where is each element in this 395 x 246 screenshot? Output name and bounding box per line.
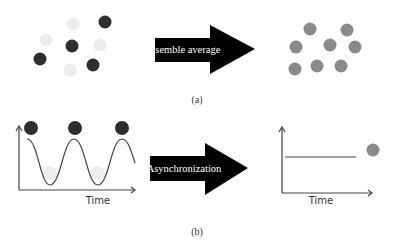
averaged-dot	[311, 60, 324, 73]
averaged-dot	[289, 63, 302, 76]
light-dot	[40, 34, 53, 47]
averaged-dot	[335, 60, 348, 73]
light-dot	[64, 64, 77, 77]
figure: Ensemble average (a) Time Asynchronizati…	[0, 0, 395, 246]
caption-b: (b)	[191, 226, 203, 238]
dark-dot	[34, 53, 47, 66]
ensemble-average-label: Ensemble average	[144, 44, 221, 55]
averaged-dot	[349, 41, 362, 54]
averaged-dot	[304, 23, 317, 36]
ensemble-average-arrow: Ensemble average	[144, 25, 255, 74]
asynchronization-label: Asynchronization	[147, 163, 222, 174]
light-dot	[67, 18, 80, 31]
figure-canvas: Ensemble average (a) Time Asynchronizati…	[0, 0, 395, 246]
caption-a: (a)	[191, 94, 202, 106]
asynchronization-arrow: Asynchronization	[147, 143, 248, 195]
dark-dot	[99, 16, 112, 29]
unsynchronized-dots	[34, 16, 112, 77]
averaged-dot	[324, 39, 337, 52]
averaged-dot	[290, 41, 303, 54]
dark-dot	[66, 40, 79, 53]
x-axis-label-left: Time	[85, 195, 110, 206]
oscillation-plot: Time	[16, 121, 135, 206]
averaged-dot	[341, 24, 354, 37]
light-dot	[94, 39, 107, 52]
averaged-dots	[289, 23, 362, 76]
x-axis-label-right: Time	[308, 195, 333, 206]
dark-dot	[87, 59, 100, 72]
flat-average-plot: Time	[279, 127, 380, 206]
